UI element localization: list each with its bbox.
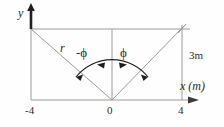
x-tick-label-minus4: -4 bbox=[25, 105, 34, 116]
y-axis-arrowhead-icon bbox=[27, 3, 35, 11]
x-axis-label: x (m) bbox=[180, 80, 205, 92]
angle-arc-arrowhead-left-inner bbox=[97, 63, 105, 69]
y-axis-label: y bbox=[18, 7, 23, 19]
angle-right-label: ϕ bbox=[120, 46, 127, 59]
x-tick-label-4: 4 bbox=[178, 105, 184, 116]
x-tick-label-origin: 0 bbox=[107, 105, 113, 116]
x-axis-arrowhead-icon bbox=[188, 97, 199, 104]
physics-figure: y x (m) r -ϕ ϕ 3m -4 0 4 bbox=[0, 0, 224, 127]
angle-arc-arrowhead-right-inner bbox=[119, 63, 127, 69]
angle-left-label: -ϕ bbox=[76, 46, 87, 59]
height-dimension-label: 3m bbox=[189, 50, 203, 61]
ray-right-line bbox=[112, 26, 184, 100]
radius-label: r bbox=[60, 42, 65, 54]
